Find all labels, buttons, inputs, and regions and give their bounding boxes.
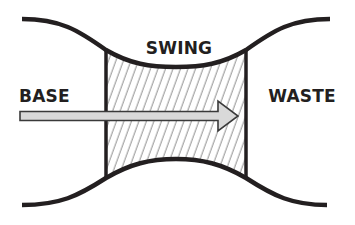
base-label: BASE	[19, 86, 70, 106]
bottom-curve	[22, 159, 327, 205]
waste-label: WASTE	[268, 86, 336, 106]
swing-diagram: SWING BASE WASTE	[0, 0, 355, 225]
swing-label: SWING	[146, 38, 213, 58]
